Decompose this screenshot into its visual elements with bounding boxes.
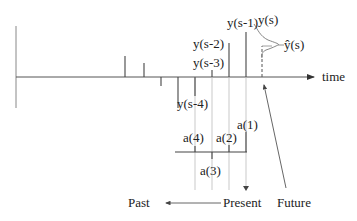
label-a3: a(3) xyxy=(200,163,221,178)
label-y-hat-s: ŷ(s) xyxy=(284,37,304,52)
label-y-s-minus-4: y(s-4) xyxy=(177,96,208,111)
time-axis-label: time xyxy=(322,69,345,84)
diagram-canvas: time y(s-1) y(s-2) y(s-3) xyxy=(0,0,357,221)
label-y-s: y(s) xyxy=(258,12,278,27)
label-a4: a(4) xyxy=(183,130,204,145)
label-a1: a(1) xyxy=(237,117,258,132)
label-a2: a(2) xyxy=(216,130,237,145)
label-y-s-minus-3: y(s-3) xyxy=(193,55,224,70)
prediction-diagram: time y(s-1) y(s-2) y(s-3) xyxy=(0,0,357,221)
label-past: Past xyxy=(128,195,150,210)
present-arrowhead-icon xyxy=(243,186,249,191)
label-future: Future xyxy=(277,195,311,210)
label-y-s-minus-2: y(s-2) xyxy=(193,36,224,51)
label-present: Present xyxy=(223,195,262,210)
future-pointer xyxy=(264,85,286,188)
label-y-s-minus-1: y(s-1) xyxy=(227,15,258,30)
